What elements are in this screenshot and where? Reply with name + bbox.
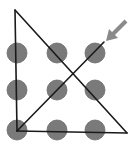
dot-r1-c1 bbox=[7, 43, 27, 63]
dot-r3-c3 bbox=[85, 120, 105, 140]
dot-r1-c2 bbox=[47, 43, 67, 63]
line-segment-3 bbox=[15, 10, 127, 133]
line-segment-2 bbox=[17, 131, 127, 133]
nine-dots-diagram bbox=[0, 0, 136, 149]
dot-r3-c2 bbox=[47, 120, 67, 140]
solution-path bbox=[15, 10, 127, 133]
dot-r1-c3 bbox=[85, 43, 105, 63]
line-segment-4 bbox=[15, 10, 17, 131]
start-arrow-icon bbox=[106, 21, 126, 41]
